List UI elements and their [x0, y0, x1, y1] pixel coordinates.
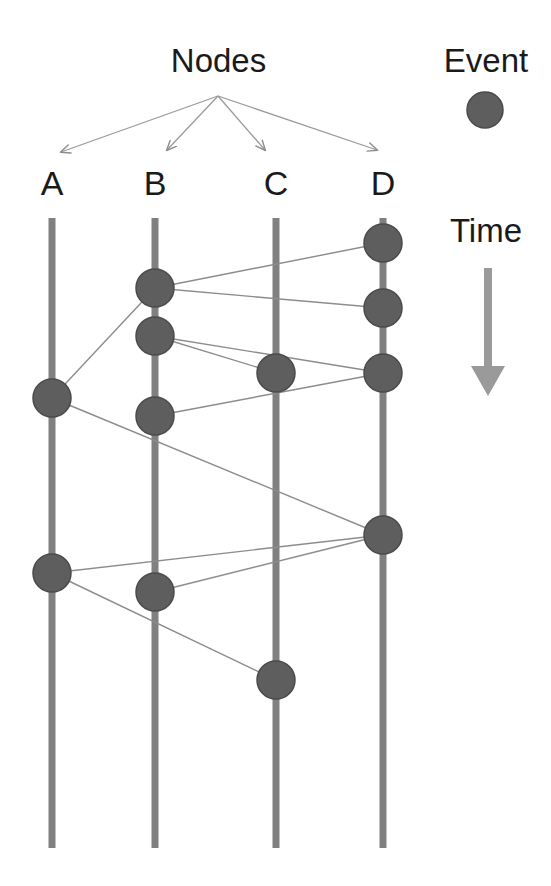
lifelines [52, 218, 383, 848]
nodes-pointer-arrow-b [167, 96, 218, 150]
event-marker-b4 [136, 573, 174, 611]
event-marker-b1 [136, 269, 174, 307]
node-label-b: B [125, 166, 185, 200]
message-edge-a2-d4 [52, 535, 383, 573]
spacetime-diagram: Nodes Event Time ABCD [0, 0, 551, 886]
time-arrow [471, 268, 505, 396]
nodes-title: Nodes [0, 44, 437, 77]
message-edges [52, 243, 383, 680]
message-edge-b1-d1 [155, 243, 383, 288]
time-axis-label: Time [421, 214, 551, 247]
event-marker-d3 [364, 354, 402, 392]
message-edge-b4-d4 [155, 535, 383, 592]
event-marker-a2 [33, 554, 71, 592]
message-edge-a1-d4 [52, 398, 383, 535]
message-edge-b1-d2 [155, 288, 383, 308]
time-arrow-head [471, 366, 505, 396]
event-marker-a1 [33, 379, 71, 417]
event-marker-d2 [364, 289, 402, 327]
event-marker-c2 [257, 661, 295, 699]
event-marker-b2 [136, 317, 174, 355]
event-marker-d1 [364, 224, 402, 262]
event-marker-d4 [364, 516, 402, 554]
legend-event-label: Event [421, 44, 551, 77]
events [33, 224, 402, 699]
event-marker-b3 [136, 397, 174, 435]
node-label-c: C [246, 166, 306, 200]
nodes-pointer-arrow-a [61, 96, 218, 152]
event-marker-c1 [257, 354, 295, 392]
node-label-a: A [22, 166, 82, 200]
nodes-pointer-arrows [61, 96, 377, 152]
diagram-canvas [0, 0, 551, 886]
node-label-d: D [353, 166, 413, 200]
legend-event-marker [467, 92, 503, 128]
